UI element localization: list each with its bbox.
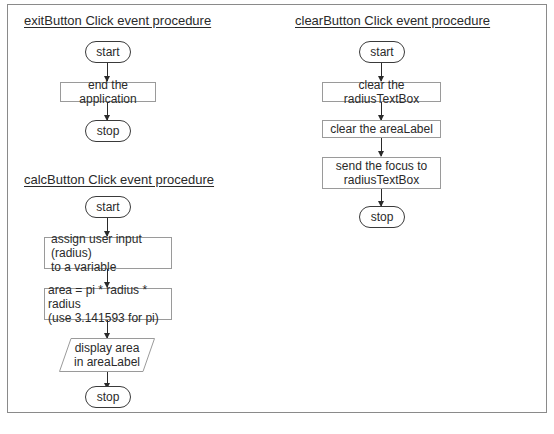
exit-procedure-title: exitButton Click event procedure <box>24 13 211 28</box>
flow-arrow <box>107 102 108 120</box>
exit-end-application-step: end the application <box>60 82 156 102</box>
calc-stop-terminal: stop <box>85 386 131 408</box>
flow-arrow <box>381 189 382 206</box>
exit-start-terminal: start <box>85 41 131 63</box>
clear-area-label-step: clear the areaLabel <box>322 120 441 138</box>
calc-start-terminal: start <box>85 196 131 218</box>
calc-display-area-label: display area in areaLabel <box>74 341 140 369</box>
calc-assign-input-step: assign user input (radius) to a variable <box>44 237 172 269</box>
calc-procedure-title: calcButton Click event procedure <box>24 172 214 187</box>
flow-arrow <box>381 138 382 156</box>
clear-start-terminal: start <box>359 41 405 63</box>
flow-arrow <box>381 102 382 120</box>
calc-display-area-io: display area in areaLabel <box>59 338 155 372</box>
clear-stop-terminal: stop <box>359 206 405 228</box>
exit-stop-terminal: stop <box>85 120 131 142</box>
clear-radius-textbox-step: clear the radiusTextBox <box>322 82 441 102</box>
calc-area-formula-step: area = pi * radius * radius (use 3.14159… <box>44 288 172 320</box>
flow-arrow <box>107 320 108 338</box>
clear-procedure-title: clearButton Click event procedure <box>295 13 490 28</box>
clear-send-focus-step: send the focus to radiusTextBox <box>322 157 441 189</box>
